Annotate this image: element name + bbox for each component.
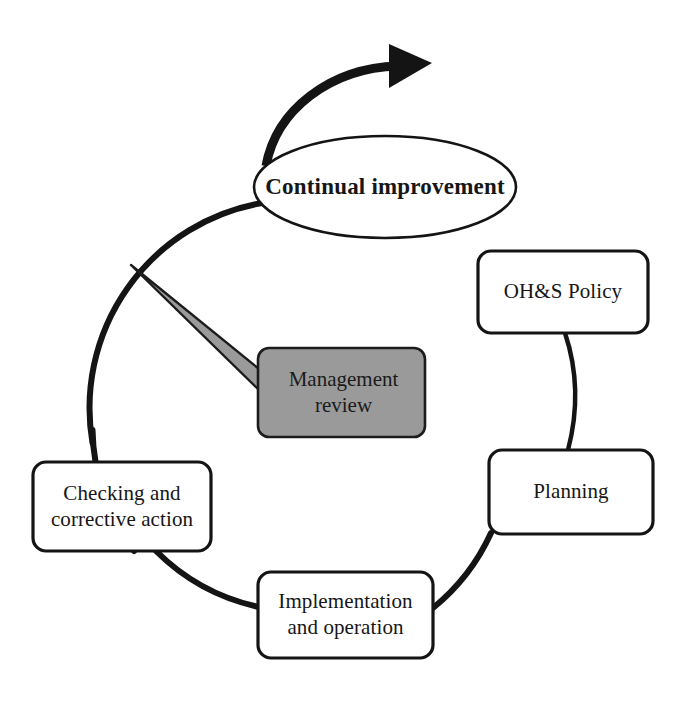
management-review-callout-body <box>258 348 425 437</box>
management-review-callout[interactable] <box>131 265 425 437</box>
ring-arc-checking-to-improvement <box>90 203 262 443</box>
diagram-canvas: Continual improvement OH&S Policy Planni… <box>0 0 687 704</box>
implementation-and-operation-box[interactable] <box>258 572 433 658</box>
management-review-callout-tail <box>131 265 259 390</box>
ring-arc-checking-to-implementation <box>156 551 259 607</box>
continual-improvement-ellipse[interactable] <box>254 136 516 238</box>
connector-policy-to-planning <box>565 333 575 450</box>
planning-box[interactable] <box>489 450 653 534</box>
continual-improvement-arrow-head <box>389 44 432 88</box>
checking-and-corrective-action-box[interactable] <box>33 462 211 551</box>
ohs-policy-box[interactable] <box>478 251 648 333</box>
ring-arc-planning-to-implementation <box>433 533 491 608</box>
diagram-vector-layer <box>0 0 687 704</box>
